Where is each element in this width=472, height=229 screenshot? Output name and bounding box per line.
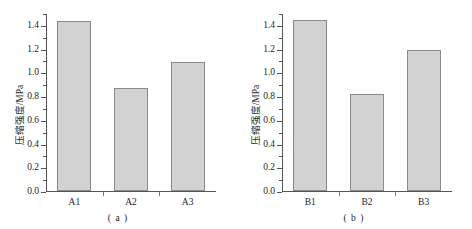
x-tick-label-A2: A2 (125, 198, 137, 208)
y-major-tick (41, 26, 46, 27)
bar-B3 (407, 50, 441, 191)
y-minor-tick (43, 14, 46, 15)
x-tick-label-B2: B2 (361, 198, 372, 208)
y-minor-tick (43, 61, 46, 62)
panel-caption-b: ( b ) (236, 213, 472, 223)
x-axis-tick (339, 192, 340, 196)
x-axis-line-a (46, 191, 216, 192)
y-minor-tick (279, 61, 282, 62)
y-tick-label: 0.6 (263, 116, 275, 126)
plot-area-a: 0.00.20.40.60.81.01.21.4 A1A2A3 (46, 14, 216, 192)
bar-B2 (350, 94, 384, 191)
x-axis-tick (159, 192, 160, 196)
y-tick-label: 0.2 (263, 164, 275, 174)
y-tick-label: 0.4 (263, 140, 275, 150)
x-axis-line-b (282, 191, 452, 192)
y-major-tick (277, 168, 282, 169)
plot-area-b: 0.00.20.40.60.81.01.21.4 B1B2B3 (282, 14, 452, 192)
y-minor-tick (279, 14, 282, 15)
y-major-tick (277, 97, 282, 98)
y-major-tick (41, 192, 46, 193)
y-tick-label: 0.8 (27, 92, 39, 102)
panel-caption-a: ( a ) (0, 213, 236, 223)
y-tick-label: 0.2 (27, 164, 39, 174)
y-minor-tick (279, 156, 282, 157)
y-tick-label: 0.0 (27, 187, 39, 197)
y-major-tick (277, 73, 282, 74)
bar-A3 (171, 62, 205, 191)
y-major-tick (277, 26, 282, 27)
x-tick-label-A3: A3 (182, 198, 194, 208)
y-tick-label: 0.6 (27, 116, 39, 126)
y-minor-tick (279, 109, 282, 110)
y-tick-label: 0.8 (263, 92, 275, 102)
x-axis-tick (395, 192, 396, 196)
y-major-tick (277, 50, 282, 51)
x-axis-tick (103, 192, 104, 196)
y-minor-tick (43, 38, 46, 39)
bar-A1 (57, 21, 91, 191)
y-major-tick (41, 145, 46, 146)
y-tick-label: 1.2 (263, 45, 275, 55)
x-tick-label-A1: A1 (69, 198, 81, 208)
y-major-tick (41, 168, 46, 169)
y-tick-label: 1.2 (27, 45, 39, 55)
bar-A2 (114, 88, 148, 191)
y-minor-tick (279, 180, 282, 181)
y-major-tick (41, 97, 46, 98)
y-tick-label: 1.0 (263, 69, 275, 79)
chart-panel-b: 压缩强度/MPa 0.00.20.40.60.81.01.21.4 B1B2B3… (236, 0, 472, 229)
y-major-tick (277, 145, 282, 146)
x-tick-label-B1: B1 (305, 198, 316, 208)
y-axis-label-a: 压缩强度/MPa (11, 0, 27, 229)
x-tick-label-B3: B3 (418, 198, 429, 208)
y-minor-tick (279, 133, 282, 134)
y-axis-line-b (282, 14, 283, 192)
y-major-tick (41, 121, 46, 122)
y-major-tick (277, 121, 282, 122)
figure-container: 压缩强度/MPa 0.00.20.40.60.81.01.21.4 A1A2A3… (0, 0, 472, 229)
y-major-tick (277, 192, 282, 193)
y-minor-tick (279, 38, 282, 39)
y-major-tick (41, 73, 46, 74)
y-minor-tick (43, 109, 46, 110)
y-minor-tick (279, 85, 282, 86)
y-tick-label: 0.4 (27, 140, 39, 150)
y-axis-label-b: 压缩强度/MPa (247, 0, 263, 229)
y-axis-line-a (46, 14, 47, 192)
y-tick-label: 0.0 (263, 187, 275, 197)
y-tick-label: 1.4 (263, 21, 275, 31)
y-minor-tick (43, 133, 46, 134)
y-minor-tick (43, 85, 46, 86)
y-minor-tick (43, 180, 46, 181)
y-tick-label: 1.0 (27, 69, 39, 79)
chart-panel-a: 压缩强度/MPa 0.00.20.40.60.81.01.21.4 A1A2A3… (0, 0, 236, 229)
y-minor-tick (43, 156, 46, 157)
y-major-tick (41, 50, 46, 51)
bar-B1 (293, 20, 327, 191)
y-tick-label: 1.4 (27, 21, 39, 31)
